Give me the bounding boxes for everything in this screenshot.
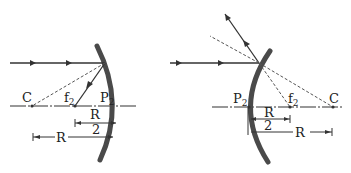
focus-label: f2 — [288, 91, 299, 108]
convex-mirror-diagram: P2 f2 C R 2 R — [170, 14, 343, 162]
arrow-head-icon — [66, 60, 72, 66]
half-radius-denominator: 2 — [92, 122, 100, 137]
arrow-head-icon — [34, 135, 40, 139]
focus-label: f2 — [64, 90, 75, 107]
radius-label: R — [295, 125, 306, 140]
arrow-head-icon — [76, 121, 81, 125]
reflected-ray — [225, 14, 259, 63]
half-radius-denominator: 2 — [264, 118, 272, 133]
arrow-head-icon — [176, 60, 182, 66]
virtual-ray-to-focus — [259, 63, 290, 107]
half-radius-numerator: R — [90, 107, 101, 122]
arrow-head-icon — [225, 14, 231, 21]
arrow-head-icon — [30, 60, 36, 66]
arrow-head-icon — [218, 60, 224, 66]
normal-extension — [210, 36, 259, 63]
arrow-head-icon — [284, 117, 289, 121]
concave-mirror-diagram: C f2 P2 R 2 R — [10, 46, 136, 160]
arrow-head-icon — [243, 40, 250, 47]
arrow-head-icon — [325, 130, 331, 134]
center-label: C — [329, 91, 339, 106]
radius-label: R — [56, 130, 67, 145]
pole-label: P2 — [233, 91, 247, 108]
center-label: C — [22, 90, 32, 105]
mirror-ray-diagram: C f2 P2 R 2 R — [0, 0, 351, 173]
